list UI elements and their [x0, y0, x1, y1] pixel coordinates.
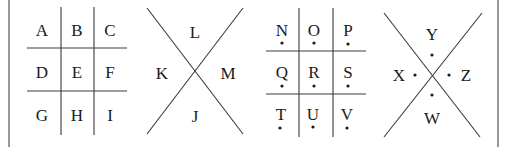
x-shape-2-dotted: Y X Z W [384, 13, 482, 137]
letter-S: S [343, 63, 352, 82]
letter-L: L [190, 23, 200, 42]
letter-H: H [71, 106, 83, 125]
letter-J: J [192, 107, 199, 126]
letter-T: T [276, 105, 287, 124]
letter-I: I [107, 106, 113, 125]
letter-Y: Y [426, 25, 438, 44]
letter-D: D [36, 63, 48, 82]
letter-X: X [393, 66, 405, 85]
grid-1: A B C D E F G H I [27, 7, 127, 135]
letter-M: M [220, 64, 235, 83]
letter-V: V [341, 105, 354, 124]
letter-C: C [104, 21, 115, 40]
letter-Z: Z [461, 66, 471, 85]
letter-G: G [36, 106, 48, 125]
letter-B: B [71, 21, 82, 40]
letter-A: A [36, 21, 49, 40]
letter-E: E [72, 63, 82, 82]
letter-U: U [307, 105, 319, 124]
letter-R: R [308, 63, 320, 82]
letter-W: W [424, 109, 441, 128]
letter-O: O [308, 21, 320, 40]
letter-P: P [343, 21, 352, 40]
x-shape-1: L K M J [147, 8, 243, 134]
letter-F: F [105, 63, 114, 82]
letter-N: N [276, 21, 288, 40]
grid-2-dotted: N O P Q R S T U V [266, 8, 366, 137]
letter-K: K [156, 64, 169, 83]
letter-Q: Q [276, 63, 288, 82]
pigpen-diagram: A B C D E F G H I L K M J N O P Q R S T … [0, 0, 505, 147]
